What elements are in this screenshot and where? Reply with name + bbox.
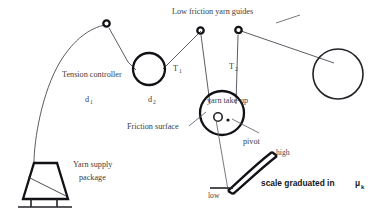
- label-tension-2-main: T: [229, 62, 234, 71]
- label-distance-1-main: d: [85, 95, 89, 104]
- label-distance-2-sub: 2: [153, 99, 156, 105]
- label-high: high: [276, 148, 290, 157]
- label-tension-1-sub: 1: [179, 68, 182, 74]
- yarn-path-controller-to-guide2: [163, 31, 201, 69]
- pointer-needle: [216, 120, 228, 190]
- yarn-path-supply-to-guide1: [34, 25, 105, 163]
- yarn-path-guide1-to-controller: [109, 28, 136, 70]
- label-distance-1: d 1: [85, 95, 93, 105]
- label-low-friction-yarn-guides: Low friction yarn guides: [172, 7, 253, 16]
- label-tension-2-sub: 2: [235, 66, 238, 72]
- leader-guides: [276, 15, 300, 23]
- label-supply-line2: package: [79, 173, 106, 182]
- pivot-dot: [226, 118, 229, 121]
- label-distance-2: d 2: [148, 95, 156, 105]
- label-supply-line1: Yarn supply: [73, 160, 113, 169]
- label-scale-symbol-sub: k: [361, 184, 365, 190]
- yarn-path-guide2-to-takeup: [201, 35, 210, 104]
- diagram-canvas: Low friction yarn guides Tension control…: [0, 0, 388, 217]
- guide-3-icon: [235, 27, 241, 33]
- label-scale-symbol: μ: [355, 178, 360, 188]
- label-distance-1-sub: 1: [90, 99, 93, 105]
- pivot-circle: [214, 113, 222, 121]
- label-low: low: [208, 191, 220, 200]
- scale-arc-inner: [233, 156, 277, 194]
- yarn-path-guide3-to-roll: [241, 31, 334, 63]
- label-tension-2: T 2: [229, 62, 238, 72]
- yarn-tension-diagram: Low friction yarn guides Tension control…: [0, 0, 388, 217]
- scale-arc-cap-low: [228, 191, 233, 194]
- label-yarn-supply-package: Yarn supply package: [73, 160, 113, 182]
- label-tension-controller: Tension controller: [62, 70, 122, 79]
- label-scale-graduated: scale graduated in μ k: [261, 178, 365, 190]
- label-pivot: pivot: [243, 137, 261, 146]
- tension-controller-roller: [133, 53, 165, 85]
- label-distance-2-main: d: [148, 95, 152, 104]
- package-winding-line: [28, 177, 66, 196]
- label-tension-1-main: T: [173, 64, 178, 73]
- guide-1-icon: [103, 20, 109, 26]
- label-friction-surface: Friction surface: [127, 122, 179, 131]
- label-tension-1: T 1: [173, 64, 182, 74]
- label-yarn-take-up: yarn take-up: [207, 96, 248, 105]
- label-scale-text: scale graduated in: [261, 178, 335, 188]
- guide-2-icon: [197, 27, 203, 33]
- take-up-roll: [313, 49, 363, 99]
- yarn-supply-package: [18, 163, 72, 207]
